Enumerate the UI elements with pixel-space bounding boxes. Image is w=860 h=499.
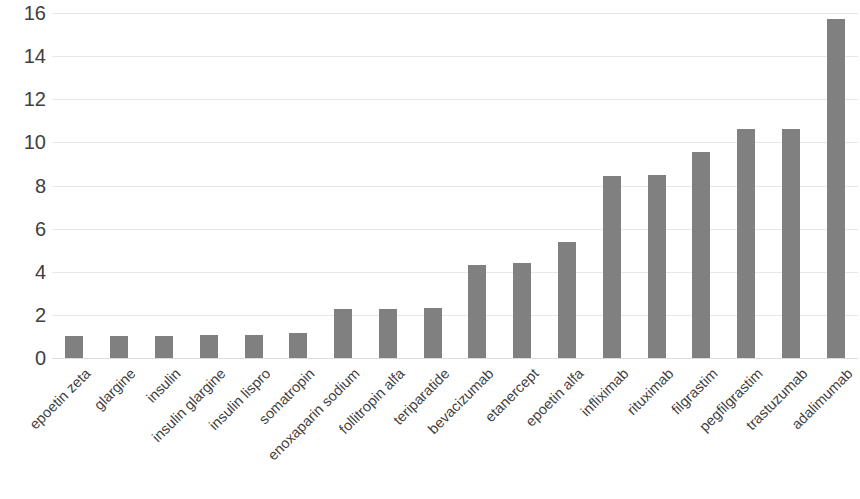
x-tick-label: filgrastim (669, 366, 720, 417)
x-tick-label: follitropin alfa (336, 366, 407, 437)
bar[interactable] (289, 333, 307, 358)
x-tick-label: epoetin alfa (523, 366, 586, 429)
x-tick-label: teriparatide (390, 366, 452, 428)
y-tick-label-2: 2 (12, 305, 46, 325)
y-tick-label-10: 10 (12, 132, 46, 152)
x-tick-label: insulin lispro (206, 366, 273, 433)
bar[interactable] (245, 335, 263, 358)
x-tick-label-text: glargine (92, 366, 139, 413)
x-tick-label-text: trastuzumab (743, 366, 810, 433)
bar[interactable] (692, 152, 710, 358)
x-tick-label-text: enoxaparin sodium (265, 366, 362, 463)
x-tick-label: infliximab (578, 366, 631, 419)
x-tick-label: adalimumab (789, 366, 855, 432)
bar[interactable] (334, 309, 352, 358)
bar[interactable] (468, 265, 486, 358)
bar[interactable] (782, 129, 800, 358)
bar[interactable] (827, 19, 845, 358)
x-tick-label: insulin (144, 366, 183, 405)
x-tick-label: rituximab (624, 366, 676, 418)
x-tick-label: pegfilgrastim (697, 366, 765, 434)
y-tick-label-16: 16 (12, 3, 46, 23)
bar[interactable] (155, 336, 173, 358)
bar[interactable] (558, 242, 576, 358)
gridline-0 (52, 358, 858, 359)
x-tick-label-text: rituximab (624, 366, 676, 418)
bar[interactable] (648, 175, 666, 358)
x-tick-label-text: bevacizumab (426, 366, 497, 437)
x-tick-label: epoetin zeta (28, 366, 94, 432)
y-tick-label-6: 6 (12, 219, 46, 239)
plot-area (52, 13, 858, 358)
x-tick-label-text: epoetin alfa (523, 366, 586, 429)
x-tick-label-text: insulin (144, 366, 183, 405)
bar[interactable] (379, 309, 397, 358)
y-tick-label-12: 12 (12, 89, 46, 109)
bar[interactable] (200, 335, 218, 358)
x-tick-label: etanercept (483, 366, 542, 425)
y-tick-label-14: 14 (12, 46, 46, 66)
x-tick-label-text: insulin lispro (206, 366, 273, 433)
y-tick-label-0: 0 (12, 348, 46, 368)
x-tick-label-text: teriparatide (390, 366, 452, 428)
y-tick-label-4: 4 (12, 262, 46, 282)
x-tick-label-text: adalimumab (789, 366, 855, 432)
x-tick-label-text: etanercept (483, 366, 542, 425)
x-tick-label-text: pegfilgrastim (697, 366, 765, 434)
bar[interactable] (424, 308, 442, 358)
x-tick-label-text: epoetin zeta (28, 366, 94, 432)
bar[interactable] (65, 336, 83, 358)
bar[interactable] (110, 336, 128, 358)
bar-series (52, 13, 858, 358)
x-tick-label-text: infliximab (578, 366, 631, 419)
x-tick-label-text: filgrastim (669, 366, 720, 417)
x-tick-label-text: insulin glargine (149, 366, 228, 445)
bar-chart: 0246810121416 epoetin zetaglargineinsuli… (0, 0, 860, 499)
x-tick-label-text: follitropin alfa (336, 366, 407, 437)
bar[interactable] (513, 263, 531, 358)
bar[interactable] (737, 129, 755, 358)
x-tick-label: glargine (92, 366, 139, 413)
x-tick-label: enoxaparin sodium (265, 366, 362, 463)
x-tick-label-text: somatropin (257, 366, 318, 427)
y-tick-label-8: 8 (12, 176, 46, 196)
x-tick-label: insulin glargine (149, 366, 228, 445)
x-tick-label: somatropin (257, 366, 318, 427)
x-tick-label: bevacizumab (426, 366, 497, 437)
bar[interactable] (603, 176, 621, 358)
x-tick-label: trastuzumab (743, 366, 810, 433)
